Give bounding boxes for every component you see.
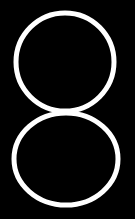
figure-eight-svg	[0, 0, 135, 219]
figure-eight-canvas	[0, 0, 135, 219]
